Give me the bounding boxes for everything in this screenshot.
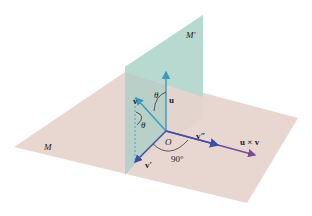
label-v-prime: v′: [145, 160, 152, 170]
label-u: u: [169, 95, 174, 105]
label-m-prime: M′: [185, 30, 196, 40]
label-theta-upper: θ: [154, 90, 159, 100]
label-theta-lower: θ: [141, 120, 146, 130]
label-90-degrees: 90°: [171, 154, 184, 164]
label-m: M: [43, 142, 52, 152]
label-v: v: [133, 96, 138, 106]
label-v-double-prime: v″: [196, 131, 206, 141]
label-u-cross-v: u × v: [240, 137, 260, 147]
cross-product-diagram: M′ M u v θ θ O v″ u × v 90° v′: [0, 0, 312, 216]
label-origin: O: [165, 137, 172, 147]
